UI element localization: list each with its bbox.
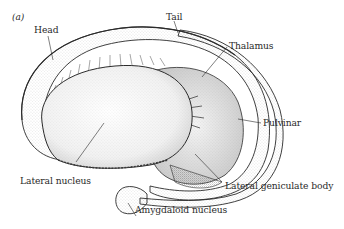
panel-label: (a) xyxy=(12,13,24,22)
label-thalamus: Thalamus xyxy=(229,41,273,50)
label-lateral-nucleus: Lateral nucleus xyxy=(20,176,91,185)
anatomical-figure: (a) Head Tail Thalamus Pulvinar Lateral … xyxy=(0,0,344,229)
label-head: Head xyxy=(34,25,58,34)
label-tail: Tail xyxy=(166,12,182,21)
label-lateral-geniculate-body: Lateral geniculate body xyxy=(225,181,333,190)
label-amygdaloid-nucleus: Amygdaloid nucleus xyxy=(135,205,227,214)
label-pulvinar: Pulvinar xyxy=(263,118,301,127)
lateral-nucleus xyxy=(42,65,193,168)
